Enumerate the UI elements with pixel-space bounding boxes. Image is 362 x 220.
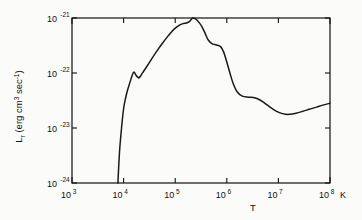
axes-frame — [72, 18, 330, 183]
x-tick-mantissa: 10 — [61, 190, 71, 200]
x-tick-label-8: 108 — [319, 188, 335, 201]
x-axis-title: T — [250, 202, 256, 213]
y-tick-exponent: -23 — [60, 121, 70, 128]
y-tick-label--23: 10-23 — [47, 121, 70, 134]
y-tick-exponent: -22 — [60, 66, 70, 73]
x-tick-label-6: 106 — [216, 188, 232, 201]
x-tick-label-5: 105 — [164, 188, 180, 201]
x-tick-mantissa: 10 — [319, 190, 329, 200]
x-tick-label-4: 104 — [113, 188, 129, 201]
x-tick-exponent: 8 — [331, 188, 335, 195]
x-tick-mantissa: 10 — [113, 190, 123, 200]
plot-frame — [72, 18, 330, 183]
x-tick-mantissa: 10 — [216, 190, 226, 200]
x-tick-label-7: 107 — [267, 188, 283, 201]
cooling-function-chart: 103104105106107108K 10-2110-2210-2310-24… — [0, 0, 362, 220]
x-tick-mantissa: 10 — [164, 190, 174, 200]
y-tick-label--22: 10-22 — [47, 66, 70, 79]
x-axis-ticks — [72, 18, 330, 183]
data-curve — [118, 18, 330, 183]
y-tick-mantissa: 10 — [47, 14, 57, 24]
x-tick-exponent: 7 — [279, 188, 283, 195]
y-tick-exponent: -24 — [60, 176, 70, 183]
x-tick-exponent: 4 — [124, 188, 128, 195]
y-tick-exponent: -21 — [60, 11, 70, 18]
y-axis-ticks — [72, 18, 330, 183]
figure-panel: 103104105106107108K 10-2110-2210-2310-24… — [0, 0, 362, 220]
cooling-curve-line — [118, 18, 330, 183]
x-tick-label-3: 103 — [61, 188, 77, 201]
x-tick-mantissa: 10 — [267, 190, 277, 200]
x-axis-tick-labels: 103104105106107108K — [61, 188, 346, 201]
y-tick-mantissa: 10 — [47, 179, 57, 189]
y-axis-title: Lr (erg cm3 sec-1) — [13, 70, 26, 142]
x-tick-exponent: 3 — [73, 188, 77, 195]
x-tick-exponent: 6 — [227, 188, 231, 195]
y-tick-label--21: 10-21 — [47, 11, 70, 24]
y-tick-label--24: 10-24 — [47, 176, 70, 189]
y-axis-tick-labels: 10-2110-2210-2310-24 — [47, 11, 70, 189]
x-tick-exponent: 5 — [176, 188, 180, 195]
y-tick-mantissa: 10 — [47, 69, 57, 79]
y-axis-title-text: Lr (erg cm3 sec-1) — [13, 70, 26, 142]
x-axis-unit-kelvin: K — [340, 190, 346, 200]
y-tick-mantissa: 10 — [47, 124, 57, 134]
